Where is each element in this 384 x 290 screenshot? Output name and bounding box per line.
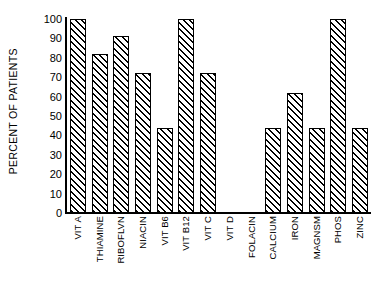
bar: [330, 19, 346, 213]
x-axis-category-label-text: VIT D: [225, 216, 235, 241]
bar: [178, 19, 194, 213]
y-axis-tick-label: 30: [26, 149, 62, 160]
x-axis-category-labels: VIT ATHIAMINERIBOFLVNNIACINVIT B6VIT B12…: [67, 214, 371, 290]
y-axis-tick-label: 20: [26, 169, 62, 180]
bar: [200, 73, 216, 213]
x-axis-category-label-text: THIAMINE: [95, 216, 105, 262]
bar-slot: [262, 19, 284, 213]
x-axis-category-label: VIT C: [197, 214, 219, 290]
y-axis-tick-label: 90: [26, 33, 62, 44]
bar-slot: [197, 19, 219, 213]
bar-slot: [154, 19, 176, 213]
x-axis-category-label: VIT D: [219, 214, 241, 290]
x-axis-category-label: NIACIN: [132, 214, 154, 290]
bar-slot: [284, 19, 306, 213]
y-axis-tick-label: 60: [26, 91, 62, 102]
y-axis-title: PERCENT OF PATIENTS: [0, 0, 26, 222]
bar-slot: [132, 19, 154, 213]
x-axis-category-label: FOLACIN: [241, 214, 263, 290]
bar: [92, 54, 108, 213]
bar-slot: [241, 19, 263, 213]
bar-slot: [110, 19, 132, 213]
x-axis-category-label-text: RIBOFLVN: [117, 216, 127, 264]
bar-slot: [219, 19, 241, 213]
x-axis-category-label-text: VIT B12: [182, 216, 192, 251]
y-axis-tick-label: 70: [26, 72, 62, 83]
bar: [309, 128, 325, 213]
bar: [70, 19, 86, 213]
x-axis-category-label: VIT A: [67, 214, 89, 290]
x-axis-category-label-text: ZINC: [355, 216, 365, 239]
x-axis-category-label: RIBOFLVN: [110, 214, 132, 290]
x-axis-category-label: VIT B12: [176, 214, 198, 290]
x-axis-category-label: THIAMINE: [89, 214, 111, 290]
x-axis-category-label-text: VIT B6: [160, 216, 170, 245]
x-axis-category-label: VIT B6: [154, 214, 176, 290]
bar-slot: [328, 19, 350, 213]
x-axis-category-label-text: VIT A: [73, 216, 83, 240]
y-axis-tick-labels: 0102030405060708090100: [26, 19, 62, 213]
y-axis-tick-label: 40: [26, 130, 62, 141]
x-axis-category-label: CALCIUM: [262, 214, 284, 290]
x-axis-category-label: PHOS: [328, 214, 350, 290]
bar-slot: [89, 19, 111, 213]
y-axis-tick-label: 80: [26, 52, 62, 63]
bar: [265, 128, 281, 213]
bar: [352, 128, 368, 213]
y-axis-tick-label: 10: [26, 188, 62, 199]
x-axis-category-label: IRON: [284, 214, 306, 290]
bar-slot: [176, 19, 198, 213]
x-axis-category-label: MAGNSM: [306, 214, 328, 290]
y-axis-tick-label: 100: [26, 14, 62, 25]
x-axis-category-label-text: VIT C: [203, 216, 213, 241]
x-axis-category-label-text: PHOS: [334, 216, 344, 243]
bar-chart: PERCENT OF PATIENTS 01020304050607080901…: [0, 0, 384, 290]
bar: [135, 73, 151, 213]
bar: [287, 93, 303, 213]
y-axis-tick-label: 0: [26, 208, 62, 219]
y-axis-title-text: PERCENT OF PATIENTS: [8, 48, 19, 174]
bar-slot: [349, 19, 371, 213]
bar: [113, 36, 129, 213]
x-axis-category-label-text: NIACIN: [138, 216, 148, 249]
x-axis-category-label-text: MAGNSM: [312, 216, 322, 259]
x-axis-category-label-text: IRON: [290, 216, 300, 240]
bar: [157, 128, 173, 213]
x-axis-category-label: ZINC: [349, 214, 371, 290]
x-axis-category-label-text: FOLACIN: [247, 216, 257, 258]
x-axis-category-label-text: CALCIUM: [269, 216, 279, 259]
y-axis-tick-label: 50: [26, 111, 62, 122]
bar-slot: [306, 19, 328, 213]
plot-area: [67, 19, 371, 213]
bar-slot: [67, 19, 89, 213]
